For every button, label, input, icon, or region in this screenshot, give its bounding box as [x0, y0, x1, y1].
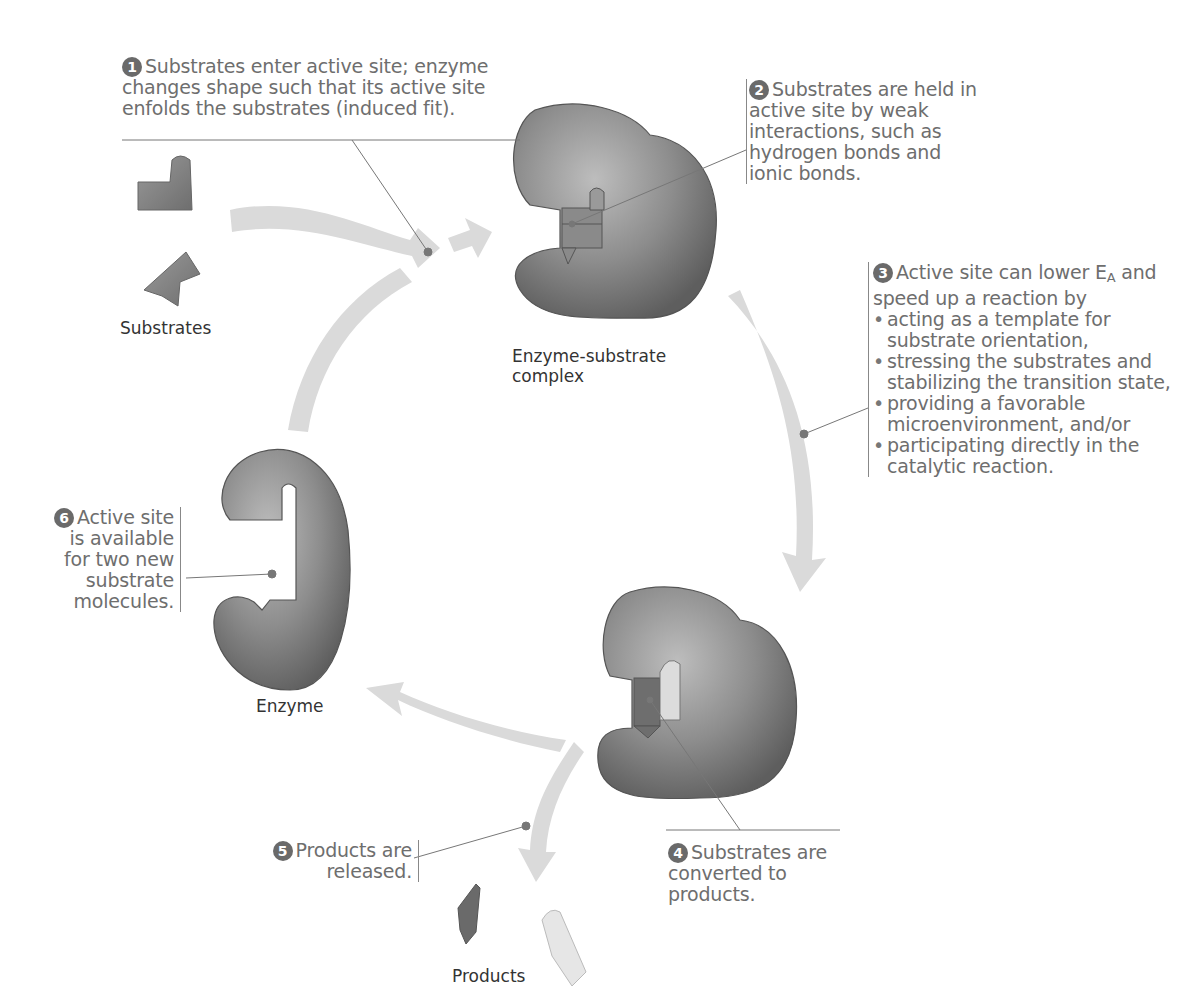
- entry-arrow-head2: [448, 218, 492, 258]
- substrates-group: [138, 156, 200, 306]
- arc-to-enzyme: [366, 682, 566, 752]
- enzyme-with-products: [598, 587, 797, 799]
- products-label: Products: [452, 966, 525, 986]
- step-6-badge: 6: [54, 508, 74, 528]
- step-3-bullet: providing a favorable microenvironment, …: [873, 393, 1193, 435]
- enzyme-substrate-complex: [514, 104, 717, 318]
- step-5-badge: 5: [273, 841, 293, 861]
- callout-step-2: 2Substrates are held in active site by w…: [746, 79, 989, 184]
- callout-step-5: 5Products are released.: [246, 840, 419, 882]
- complex-label-line1: Enzyme-substrate: [512, 346, 666, 366]
- substrate-arrow-shape: [144, 252, 200, 306]
- diagram-canvas: [0, 0, 1196, 1002]
- enzyme-label: Enzyme: [256, 696, 324, 716]
- step-3-badge: 3: [873, 263, 893, 283]
- entry-arrow: [230, 206, 440, 268]
- product-dark: [458, 884, 480, 944]
- step-3-intro: Active site can lower E: [896, 261, 1107, 283]
- step-3-bullet: acting as a template for substrate orien…: [873, 309, 1193, 351]
- products-arrow: [518, 742, 584, 882]
- step-3-bullet: stressing the substrates and stabilizing…: [873, 351, 1193, 393]
- product-light: [542, 910, 586, 986]
- callout-step-1: 1Substrates enter active site; enzyme ch…: [122, 56, 542, 119]
- complex-label-line2: complex: [512, 366, 666, 386]
- step-1-badge: 1: [122, 57, 142, 77]
- step-6-text: Active site is available for two new sub…: [64, 506, 174, 612]
- callout-step-3: 3Active site can lower EA and speed up a…: [868, 262, 1193, 477]
- complex-label: Enzyme-substrate complex: [512, 346, 666, 386]
- substrates-label: Substrates: [120, 318, 211, 338]
- step-4-badge: 4: [668, 843, 688, 863]
- step-2-text: Substrates are held in active site by we…: [749, 78, 977, 184]
- step-2-badge: 2: [749, 80, 769, 100]
- arc-complex-to-conversion: [728, 290, 826, 592]
- enzyme-shape: [214, 449, 350, 690]
- substrate-l-shape: [138, 156, 192, 210]
- callout-step-4: 4Substrates are converted to products.: [668, 842, 868, 905]
- step-3-bullets: acting as a template for substrate orien…: [873, 309, 1193, 477]
- arc-enzyme-to-complex: [288, 268, 412, 432]
- step-1-text: Substrates enter active site; enzyme cha…: [122, 55, 488, 119]
- step-5-text: Products are released.: [296, 839, 412, 882]
- callout-step-6: 6Active site is available for two new su…: [44, 507, 181, 612]
- step-3-bullet: participating directly in the catalytic …: [873, 435, 1193, 477]
- step-4-text: Substrates are converted to products.: [668, 841, 827, 905]
